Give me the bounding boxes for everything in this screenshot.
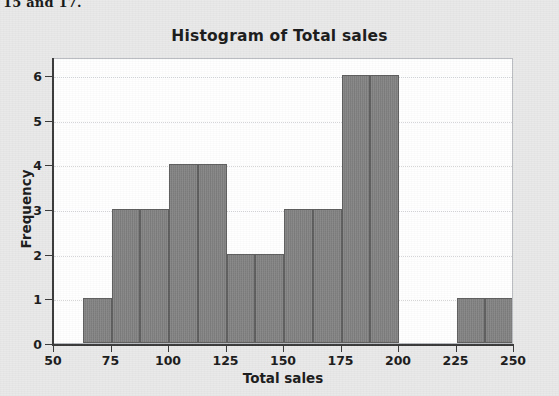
y-axis-title: Frequency [18,139,34,279]
histogram-bar [112,209,141,343]
histogram-bar [313,209,342,343]
x-tick-label: 50 [31,353,75,368]
cut-off-body-text: 15 and 17. [3,0,82,8]
x-tick-mark [283,346,284,352]
histogram-bar [255,254,284,343]
gridline [54,166,512,167]
y-tick-mark [45,344,52,345]
y-tick-mark [45,121,52,122]
x-tick-mark [398,346,399,352]
x-axis-title: Total sales [53,370,513,386]
gridline [54,77,512,78]
histogram-bar [342,75,371,343]
x-tick-label: 250 [491,353,535,368]
histogram-bar [169,164,198,343]
x-tick-label: 200 [376,353,420,368]
histogram-figure: Histogram of Total sales 0123456 5075100… [0,14,559,381]
y-tick-mark [45,210,52,211]
histogram-bar [370,75,399,343]
x-tick-mark [226,346,227,352]
x-tick-mark [341,346,342,352]
y-tick-label: 1 [16,292,42,307]
histogram-bar [140,209,169,343]
y-tick-mark [45,165,52,166]
x-tick-mark [53,346,54,352]
gridline [54,122,512,123]
x-tick-label: 125 [204,353,248,368]
x-tick-mark [456,346,457,352]
x-tick-label: 75 [89,353,133,368]
chart-title: Histogram of Total sales [0,27,559,45]
plot-inner [54,59,512,343]
y-tick-label: 6 [16,68,42,83]
y-tick-label: 0 [16,337,42,352]
histogram-bar [457,298,486,343]
histogram-bar [227,254,256,343]
x-tick-label: 225 [434,353,478,368]
x-tick-label: 150 [261,353,305,368]
x-tick-mark [513,346,514,352]
x-tick-mark [111,346,112,352]
histogram-bar [83,298,112,343]
x-tick-mark [168,346,169,352]
histogram-bar [198,164,227,343]
histogram-bar [284,209,313,343]
y-tick-mark [45,76,52,77]
y-tick-mark [45,299,52,300]
y-tick-label: 5 [16,113,42,128]
plot-area [53,58,513,344]
y-axis-line [52,58,54,345]
x-tick-label: 100 [146,353,190,368]
y-tick-mark [45,255,52,256]
x-tick-label: 175 [319,353,363,368]
histogram-bar [485,298,512,343]
